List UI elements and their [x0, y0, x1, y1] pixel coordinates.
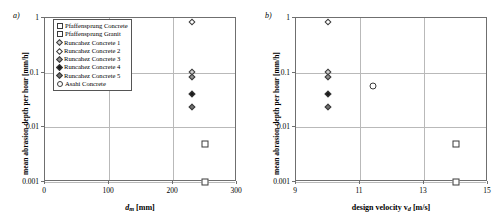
y-tick-label: 0.001	[273, 177, 290, 186]
panel-a: a) mean abrasion depth per hour [mm/h] d…	[0, 0, 251, 224]
x-axis-title-a-subscript: m	[129, 205, 134, 212]
circle-open-marker	[56, 81, 64, 87]
data-point	[202, 179, 209, 186]
x-tick-mark	[236, 181, 237, 184]
y-tick-mark	[292, 72, 295, 73]
data-point	[189, 103, 196, 110]
data-point	[189, 18, 196, 25]
plot-area-b	[295, 17, 487, 181]
x-tick-label: 200	[166, 186, 177, 195]
square-open-marker	[56, 23, 64, 29]
x-tick-mark	[44, 181, 45, 184]
y-tick-mark	[41, 126, 44, 127]
y-tick-mark	[41, 72, 44, 73]
data-point	[324, 90, 331, 97]
figure-canvas: a) mean abrasion depth per hour [mm/h] d…	[0, 0, 502, 224]
gridline-horizontal	[45, 127, 235, 128]
x-axis-title-b-unit: [m/s]	[413, 203, 430, 212]
square-open-marker	[56, 31, 64, 37]
x-tick-label: 0	[42, 186, 46, 195]
legend-item: Pfaffensprung Concrete	[56, 22, 128, 30]
legend-item-label: Pfaffensprung Granit	[65, 30, 121, 38]
legend-item-label: Pfaffensprung Concrete	[65, 22, 128, 30]
x-axis-title-b: design velocity vd [m/s]	[352, 203, 430, 212]
legend-item-label: Runcahez Concrete 2	[64, 47, 120, 55]
gridline-horizontal	[296, 127, 486, 128]
y-tick-label: 0.01	[26, 122, 39, 131]
data-point	[189, 90, 196, 97]
y-tick-label: 0.1	[281, 67, 290, 76]
legend-item-label: Runcahez Concrete 3	[64, 55, 120, 63]
x-tick-mark	[359, 181, 360, 184]
data-point	[369, 83, 376, 90]
legend-item: Runcahez Concrete 4	[56, 63, 128, 71]
x-tick-label: 9	[293, 186, 297, 195]
diamond-black-marker	[56, 65, 63, 70]
data-point	[453, 179, 460, 186]
legend-item: Asahi Concrete	[56, 80, 128, 88]
y-tick-label: 1	[35, 13, 39, 22]
legend-item: Runcahez Concrete 2	[56, 47, 128, 55]
y-tick-label: 0.001	[22, 177, 39, 186]
y-tick-label: 1	[286, 13, 290, 22]
x-axis-title-a: dm [mm]	[125, 203, 155, 212]
x-tick-mark	[295, 181, 296, 184]
legend-item-label: Asahi Concrete	[65, 80, 106, 88]
legend-item: Pfaffensprung Granit	[56, 30, 128, 38]
y-tick-mark	[41, 17, 44, 18]
x-tick-label: 15	[483, 186, 491, 195]
x-tick-label: 13	[419, 186, 427, 195]
diamond-darkgray-marker	[56, 73, 63, 78]
panel-b-tag: b)	[265, 11, 272, 20]
x-tick-label: 300	[230, 186, 241, 195]
data-point	[202, 140, 209, 147]
legend: Pfaffensprung ConcretePfaffensprung Gran…	[53, 19, 132, 91]
data-point	[324, 18, 331, 25]
x-tick-mark	[423, 181, 424, 184]
y-tick-label: 0.1	[30, 67, 39, 76]
legend-item: Runcahez Concrete 3	[56, 55, 128, 63]
data-point	[453, 140, 460, 147]
legend-item-label: Runcahez Concrete 5	[64, 72, 120, 80]
gridline-vertical	[424, 18, 425, 180]
y-tick-label: 0.01	[277, 122, 290, 131]
gridline-vertical	[360, 18, 361, 180]
legend-item: Runcahez Concrete 1	[56, 39, 128, 47]
x-axis-title-b-symbol: design velocity v	[352, 203, 408, 212]
gridline-vertical	[173, 18, 174, 180]
x-tick-mark	[487, 181, 488, 184]
panel-b: b) mean abrasion depth per hour [mm/h] d…	[251, 0, 502, 224]
gridline-horizontal	[296, 73, 486, 74]
data-point	[324, 103, 331, 110]
legend-item-label: Runcahez Concrete 1	[64, 39, 120, 47]
y-tick-mark	[292, 17, 295, 18]
diamond-open-marker	[56, 49, 63, 54]
legend-item-label: Runcahez Concrete 4	[64, 63, 120, 71]
x-tick-mark	[172, 181, 173, 184]
x-tick-mark	[108, 181, 109, 184]
diamond-gray-marker	[56, 57, 63, 62]
data-point	[324, 74, 331, 81]
data-point	[189, 74, 196, 81]
x-axis-title-a-unit: [mm]	[136, 203, 155, 212]
x-tick-label: 100	[102, 186, 113, 195]
y-tick-mark	[292, 126, 295, 127]
diamond-lightgray-marker	[56, 40, 63, 45]
x-axis-title-b-subscript: d	[408, 205, 411, 212]
panel-a-tag: a)	[13, 11, 20, 20]
legend-item: Runcahez Concrete 5	[56, 72, 128, 80]
x-tick-label: 11	[355, 186, 362, 195]
